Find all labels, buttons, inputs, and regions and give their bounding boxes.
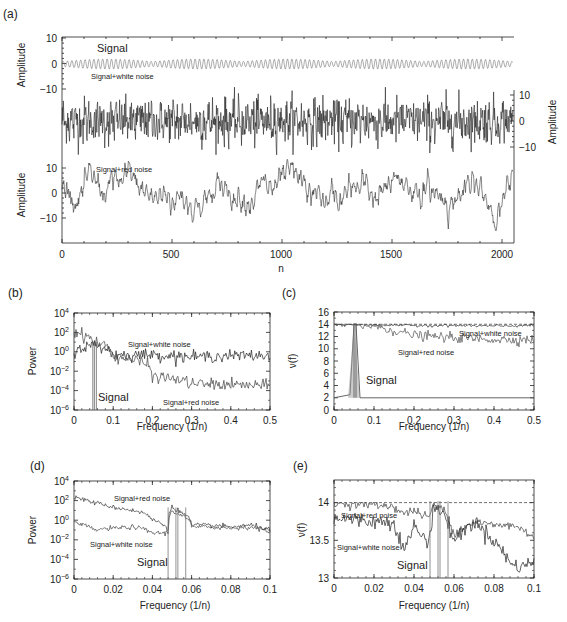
d-legend-white: Signal+white noise — [90, 540, 153, 549]
a-legend-white: Signal+white noise — [91, 72, 154, 81]
panel-e-ytick: 14 — [318, 497, 330, 508]
a-signal-line — [62, 59, 513, 69]
a-xtick-1500: 1500 — [380, 249, 403, 260]
a-xlabel: n — [278, 263, 284, 274]
panel-c-ytick: 2 — [323, 392, 329, 403]
panel-b-ytick: 10−6 — [50, 404, 69, 416]
panel-b: 00.10.20.30.40.510410210010−210−410−6 — [50, 307, 277, 427]
panel-b-ytick: 100 — [54, 345, 69, 357]
panel-c-ytick: 16 — [318, 307, 330, 318]
panel-c-ytick: 8 — [323, 356, 329, 367]
a-ytick-right-neg10: −10 — [519, 142, 536, 153]
panel-d-ytick: 102 — [54, 494, 69, 506]
panel-d-xtick: 0.02 — [103, 584, 123, 595]
panel-e-xtick: 0.1 — [527, 583, 541, 594]
d-legend-red: Signal+red noise — [114, 494, 170, 503]
panel-d-frame — [74, 481, 270, 579]
panel-label-b: (b) — [8, 286, 23, 300]
panel-c-xtick: 0.5 — [527, 415, 541, 426]
panel-b-ytick: 102 — [54, 326, 69, 338]
a-ytick-right-10: 10 — [519, 90, 531, 101]
a-ytick-right-0: 0 — [519, 116, 525, 127]
panel-c-ytick: 0 — [323, 405, 329, 416]
a-ylabel-lower: Amplitude — [16, 172, 27, 217]
panel-c-xtick: 0.1 — [367, 415, 381, 426]
panel-c-xtick: 0.4 — [487, 415, 501, 426]
panel-label-d: (d) — [30, 459, 45, 473]
panel-b-ytick: 10−4 — [50, 384, 69, 396]
a-ylabel-right: Amplitude — [547, 99, 558, 144]
e-legend-white: Signal+white noise — [337, 543, 400, 552]
panel-d-xtick: 0 — [71, 584, 77, 595]
panel-d-ytick: 10−6 — [50, 573, 69, 585]
panel-d: 00.020.040.060.080.110410210010−210−410−… — [50, 475, 277, 596]
a-series — [62, 59, 513, 230]
panel-e-ytick: 13 — [318, 573, 330, 584]
panel-e-ytick: 13.5 — [310, 535, 330, 546]
panel-c-ytick: 12 — [318, 331, 330, 342]
c-legend-red: Signal+red noise — [398, 348, 454, 357]
e-legend-red: Signal+red noise — [341, 511, 397, 520]
panel-d-xtick: 0.04 — [143, 584, 163, 595]
panel-d-xtick: 0.06 — [182, 584, 202, 595]
a-xtick-1000: 1000 — [270, 249, 293, 260]
d-white-noise-line — [74, 511, 270, 536]
panel-d-ytick: 104 — [54, 475, 69, 487]
e-ylabel: ν(f) — [296, 523, 307, 537]
panel-b-xtick: 0 — [71, 415, 77, 426]
a-xtick-2000: 2000 — [491, 249, 514, 260]
panel-c-ytick: 6 — [323, 368, 329, 379]
panel-e-frame — [334, 480, 534, 578]
a-legend-red: Signal+red noise — [96, 165, 152, 174]
a-white-noise-line — [62, 87, 513, 155]
d-red-noise-line — [74, 496, 270, 532]
a-ytick-upper-neg10: −10 — [40, 84, 57, 95]
panel-b-xtick: 0.1 — [106, 415, 120, 426]
a-ytick-lower-neg10: −10 — [40, 213, 57, 224]
panel-label-a: (a) — [3, 7, 18, 21]
panel-b-ytick: 104 — [54, 307, 69, 319]
panel-b-xtick: 0.5 — [263, 415, 277, 426]
panel-d-ytick: 10−2 — [50, 533, 69, 545]
e-xlabel: Frequency (1/n) — [399, 600, 470, 611]
c-ylabel: ν(f) — [287, 354, 298, 368]
e-legend-signal: Signal — [397, 559, 428, 571]
panel-c-xtick: 0 — [331, 415, 337, 426]
a-xtick-0: 0 — [59, 249, 65, 260]
b-red-noise-line — [74, 327, 270, 389]
panel-e-xtick: 0.08 — [484, 583, 504, 594]
a-xtick-500: 500 — [163, 249, 180, 260]
panel-e-xtick: 0.04 — [404, 583, 424, 594]
b-xlabel: Frequency (1/n) — [137, 421, 208, 432]
panel-c-ytick: 4 — [323, 380, 329, 391]
figure: (a) 10 0 −10 10 0 −10 10 0 −10 Amplitude… — [0, 0, 567, 622]
panel-d-xtick: 0.08 — [221, 584, 241, 595]
panel-label-e: (e) — [293, 459, 308, 473]
c-legend-white: Signal+white noise — [459, 329, 522, 338]
b-legend-white: Signal+white noise — [128, 340, 191, 349]
panel-b-ytick: 10−2 — [50, 365, 69, 377]
c-xlabel: Frequency (1/n) — [399, 421, 470, 432]
b-legend-signal: Signal — [98, 391, 129, 403]
panel-label-c: (c) — [282, 286, 296, 300]
a-ytick-lower-10: 10 — [46, 163, 58, 174]
panel-d-xtick: 0.1 — [263, 584, 277, 595]
panel-c-ytick: 14 — [318, 319, 330, 330]
panel-c-ytick: 10 — [318, 343, 330, 354]
b-legend-red: Signal+red noise — [163, 398, 219, 407]
d-ylabel: Power — [27, 515, 38, 544]
panel-e-xtick: 0.02 — [364, 583, 384, 594]
a-ytick-upper-0: 0 — [51, 59, 57, 70]
panel-d-ytick: 10−4 — [50, 553, 69, 565]
panel-d-ytick: 100 — [54, 514, 69, 526]
a-ticks — [62, 37, 514, 243]
d-legend-signal: Signal — [137, 556, 168, 568]
panel-e: 00.020.040.060.080.11313.514 — [310, 480, 542, 594]
panel-b-xtick: 0.4 — [224, 415, 238, 426]
c-legend-signal: Signal — [366, 374, 397, 386]
d-xlabel: Frequency (1/n) — [140, 600, 211, 611]
a-ytick-lower-0: 0 — [51, 188, 57, 199]
panel-e-xtick: 0 — [331, 583, 337, 594]
panel-c: 00.10.20.30.40.50246810121416 — [318, 307, 542, 427]
panel-e-xtick: 0.06 — [444, 583, 464, 594]
